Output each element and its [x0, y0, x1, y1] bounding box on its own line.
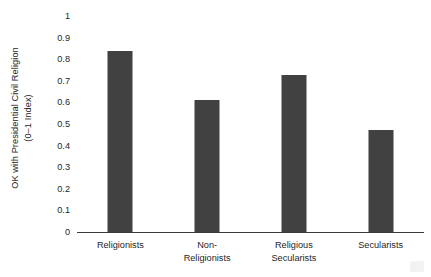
y-axis-tick-labels: 1 0.9 0.8 0.7 0.6 0.5 0.4 0.3 0.2 0.1 0 [44, 0, 74, 240]
y-axis-tick-label: 0.9 [57, 33, 70, 43]
x-axis-label-line: Secularists [337, 239, 424, 252]
y-axis-tick-label: 0.6 [57, 97, 70, 107]
y-axis-tick-label: 0 [65, 227, 70, 237]
bar-slot [164, 16, 251, 232]
y-axis-tick-label: 0.3 [57, 162, 70, 172]
x-axis-label-line: Religionists [77, 239, 164, 252]
y-axis-title-line-1: OK with Presidential Civil Religion [9, 47, 22, 189]
x-axis-label-religious-secularists: Religious Secularists [251, 236, 338, 276]
bar-slot [337, 16, 424, 232]
y-axis-tick-label: 1 [65, 11, 70, 21]
y-axis-tick-label: 0.5 [57, 119, 70, 129]
bar-slot [251, 16, 338, 232]
x-axis-label-line: Non- [164, 239, 251, 252]
y-axis-title-line-2: (0–1 Index) [22, 47, 35, 189]
y-axis-tick-label: 0.1 [57, 205, 70, 215]
x-axis-label-religionists: Religionists [77, 236, 164, 276]
bar-secularists[interactable] [368, 130, 393, 232]
x-axis-label-line: Religionists [164, 252, 251, 265]
y-axis-tick-label: 0.7 [57, 76, 70, 86]
bar-chart-figure: OK with Presidential Civil Religion (0–1… [0, 0, 431, 277]
x-axis-label-non-religionists: Non- Religionists [164, 236, 251, 276]
bar-non-religionists[interactable] [195, 100, 220, 232]
scan-artifact [410, 261, 424, 272]
x-axis-line [77, 232, 424, 233]
y-axis-tick-label: 0.8 [57, 54, 70, 64]
y-axis-title: OK with Presidential Civil Religion (0–1… [0, 0, 44, 235]
bar-religious-secularists[interactable] [281, 75, 306, 232]
x-axis-label-line: Secularists [251, 252, 338, 265]
y-axis-tick-label: 0.2 [57, 184, 70, 194]
bar-slot [77, 16, 164, 232]
plot-area [77, 16, 424, 232]
x-axis-category-labels: Religionists Non- Religionists Religious… [77, 236, 424, 276]
bars-layer [77, 16, 424, 232]
x-axis-label-line: Religious [251, 239, 338, 252]
y-axis-tick-label: 0.4 [57, 141, 70, 151]
bar-religionists[interactable] [108, 51, 133, 232]
